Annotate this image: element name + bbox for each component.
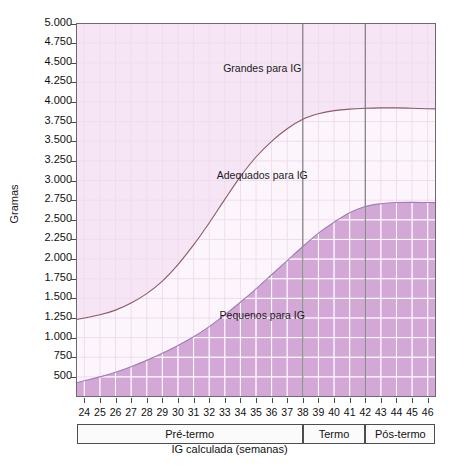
band-label: Pré-termo [165, 428, 214, 440]
x-tick-mark [303, 398, 304, 403]
x-tick-mark [396, 398, 397, 403]
x-tick-mark [365, 398, 366, 403]
growth-chart: Gramas 5007501.0001.2501.5001.7502.0002.… [0, 0, 459, 468]
band-label: Pós-termo [375, 428, 426, 440]
band-termo: Termo [303, 424, 365, 444]
x-axis-title: IG calculada (semanas) [0, 443, 459, 455]
x-tick-mark [318, 398, 319, 403]
x-tick-mark [84, 398, 85, 403]
x-tick-mark [116, 398, 117, 403]
x-tick-mark [147, 398, 148, 403]
x-tick-mark [381, 398, 382, 403]
x-tick-mark [209, 398, 210, 403]
x-tick-mark [225, 398, 226, 403]
x-tick-mark [412, 398, 413, 403]
x-tick-mark [287, 398, 288, 403]
annotation-grandes-para-ig: Grandes para IG [223, 62, 301, 74]
x-tick-mark [100, 398, 101, 403]
x-tick-mark [162, 398, 163, 403]
x-tick-mark [428, 398, 429, 403]
band-label: Termo [319, 428, 350, 440]
annotation-pequenos-para-ig: Pequenos para IG [220, 309, 305, 321]
x-tick-mark [256, 398, 257, 403]
annotation-adequados-para-ig: Adequados para IG [217, 169, 308, 181]
band-pr-termo: Pré-termo [77, 424, 303, 444]
x-tick-label: 46 [418, 406, 438, 418]
x-tick-mark [178, 398, 179, 403]
band-p-s-termo: Pós-termo [365, 424, 435, 444]
x-tick-mark [194, 398, 195, 403]
x-tick-mark [131, 398, 132, 403]
x-tick-mark [272, 398, 273, 403]
x-tick-mark [240, 398, 241, 403]
x-tick-mark [350, 398, 351, 403]
x-tick-mark [334, 398, 335, 403]
